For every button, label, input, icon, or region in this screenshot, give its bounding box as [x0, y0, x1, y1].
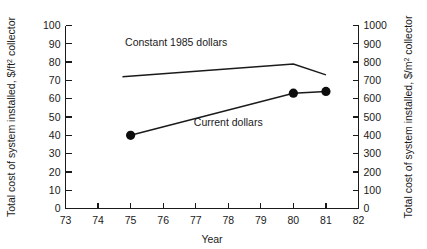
- x-axis-tick-label: 76: [157, 214, 169, 226]
- data-point-marker: [289, 89, 298, 98]
- y-axis-tick-label: 10: [49, 184, 61, 196]
- y-axis-title: Total cost of system installed, $/ft2 co…: [5, 16, 17, 217]
- x-axis-title: Year: [201, 233, 223, 245]
- x-axis-tick-label: 79: [255, 214, 267, 226]
- series-annotation-constant-1985-dollars: Constant 1985 dollars: [125, 36, 227, 48]
- cost-of-solar-system-line-chart: 0102030405060708090100010020030040050060…: [0, 0, 427, 249]
- y-axis-tick-label: 30: [49, 147, 61, 159]
- x-axis-tick-label: 82: [353, 214, 365, 226]
- y2-axis-tick-label: 100: [364, 184, 382, 196]
- y2-axis-tick-label: 1000: [364, 19, 388, 31]
- y-axis-tick-label: 20: [49, 166, 61, 178]
- x-axis-tick-label: 80: [288, 214, 300, 226]
- x-axis-tick-label: 73: [60, 214, 72, 226]
- y2-axis-tick-label: 300: [364, 147, 382, 159]
- y2-axis-tick-label: 700: [364, 74, 382, 86]
- y-axis-tick-label: 0: [55, 202, 61, 214]
- x-axis-tick-label: 77: [190, 214, 202, 226]
- svg-text:Total cost of system installed: Total cost of system installed, $/ft2 co…: [5, 16, 17, 217]
- chart-container: 0102030405060708090100010020030040050060…: [0, 0, 427, 249]
- y2-axis-tick-label: 0: [364, 202, 370, 214]
- x-axis-tick-label: 78: [222, 214, 234, 226]
- x-axis-tick-label: 74: [92, 214, 104, 226]
- y-axis-tick-label: 90: [49, 38, 61, 50]
- y-axis-tick-label: 100: [43, 19, 61, 31]
- y2-axis-tick-label: 600: [364, 92, 382, 104]
- series-line-constant-1985-dollars: [122, 64, 325, 77]
- x-axis-tick-label: 75: [125, 214, 137, 226]
- y-axis-tick-label: 70: [49, 74, 61, 86]
- series-line-current-dollars: [131, 91, 326, 135]
- series-annotation-current-dollars: Current dollars: [194, 116, 263, 128]
- x-axis-tick-label: 81: [320, 214, 332, 226]
- y-axis-tick-label: 40: [49, 129, 61, 141]
- y2-axis-title: Total cost of system installed, $/m2 col…: [402, 15, 414, 218]
- data-point-marker: [126, 131, 135, 140]
- y-axis-tick-label: 80: [49, 56, 61, 68]
- svg-text:Total cost of system installed: Total cost of system installed, $/m2 col…: [402, 15, 414, 218]
- y-axis-tick-label: 60: [49, 92, 61, 104]
- y2-axis-tick-label: 800: [364, 56, 382, 68]
- y2-axis-tick-label: 500: [364, 111, 382, 123]
- y-axis-tick-label: 50: [49, 111, 61, 123]
- y2-axis-tick-label: 400: [364, 129, 382, 141]
- data-point-marker: [321, 87, 330, 96]
- y2-axis-tick-label: 900: [364, 38, 382, 50]
- y2-axis-tick-label: 200: [364, 166, 382, 178]
